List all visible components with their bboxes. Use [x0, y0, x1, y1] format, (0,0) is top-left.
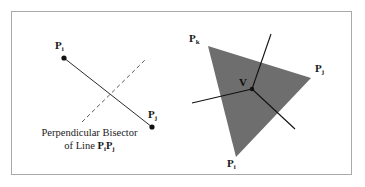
label-pk-letter: P — [189, 32, 196, 44]
caption-point-i: Pi — [98, 140, 106, 151]
label-point-pk-right: Pk — [189, 33, 200, 44]
label-pi-right-letter: P — [227, 157, 234, 169]
figure-container: Pi Pj Perpendicular Bisector of Line PiP… — [0, 0, 365, 187]
label-pj-right-letter: P — [315, 62, 322, 74]
left-panel-caption: Perpendicular Bisector of Line PiPj — [22, 126, 157, 152]
perpendicular-bisector-dashed-line — [82, 60, 145, 122]
label-point-pj-right: Pj — [315, 63, 324, 74]
label-pi-letter: P — [55, 39, 62, 51]
caption-of-line-text: of Line — [64, 140, 97, 151]
figure-vector-layer — [0, 0, 365, 187]
right-panel-geometry — [192, 34, 311, 157]
caption-point-j: Pj — [106, 140, 115, 151]
label-point-pi-left: Pi — [55, 40, 64, 51]
label-pk-subscript: k — [196, 38, 200, 46]
label-pj-right-subscript: j — [322, 68, 324, 76]
shaded-triangle — [208, 46, 311, 157]
label-pj-letter: P — [148, 108, 155, 120]
caption-line-2: of Line PiPj — [22, 139, 157, 152]
label-v-letter: V — [239, 76, 247, 88]
label-vertex-v: V — [239, 77, 247, 88]
left-panel-geometry — [61, 55, 154, 129]
point-marker-v — [250, 87, 254, 91]
label-pi-right-subscript: i — [234, 163, 236, 171]
segment-pi-pj — [64, 58, 152, 127]
label-point-pj-left: Pj — [148, 109, 157, 120]
caption-line-1: Perpendicular Bisector — [42, 127, 138, 138]
label-pi-subscript: i — [62, 45, 64, 53]
label-point-pi-right: Pi — [227, 158, 236, 169]
point-marker-pi — [61, 55, 66, 60]
label-pj-subscript: j — [155, 114, 157, 122]
